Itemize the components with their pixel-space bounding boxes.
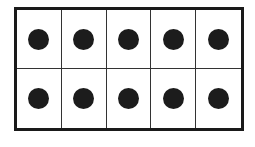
frame-cell xyxy=(196,10,241,69)
counter-dot-icon xyxy=(208,88,229,109)
frame-cell xyxy=(196,69,241,128)
counter-dot-icon xyxy=(208,29,229,50)
frame-cell xyxy=(107,10,152,69)
counter-dot-icon xyxy=(73,29,94,50)
counter-dot-icon xyxy=(118,29,139,50)
frame-cell xyxy=(17,69,62,128)
counter-dot-icon xyxy=(73,88,94,109)
frame-cell xyxy=(151,69,196,128)
frame-cell xyxy=(62,10,107,69)
counter-dot-icon xyxy=(163,29,184,50)
counter-dot-icon xyxy=(163,88,184,109)
counter-dot-icon xyxy=(28,88,49,109)
frame-cell xyxy=(151,10,196,69)
counter-dot-icon xyxy=(28,29,49,50)
ten-frame xyxy=(14,7,244,131)
counter-dot-icon xyxy=(118,88,139,109)
frame-cell xyxy=(62,69,107,128)
frame-cell xyxy=(17,10,62,69)
frame-cell xyxy=(107,69,152,128)
